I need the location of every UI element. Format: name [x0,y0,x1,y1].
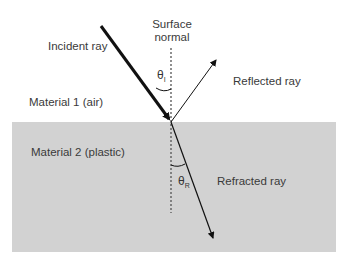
theta-subscript: R [185,182,190,189]
theta-refracted-label: θR [178,174,190,189]
surface-normal-label-line1: Surface [147,18,197,31]
theta-symbol: θ [178,174,185,188]
surface-normal-label-line2: normal [147,31,197,44]
surface-normal-label: Surface normal [147,18,197,44]
theta-symbol: θ [157,68,164,82]
refracted-ray-label: Refracted ray [217,175,286,188]
incident-angle-arc [156,88,171,91]
theta-subscript: I [164,76,166,83]
reflected-ray-arrow [171,60,216,122]
theta-incident-label: θI [157,68,166,83]
material-2-label: Material 2 (plastic) [31,146,125,159]
refracted-angle-arc [171,164,185,166]
material-1-label: Material 1 (air) [29,96,103,109]
refraction-diagram: Surface normal Incident ray Reflected ra… [0,0,341,258]
reflected-ray-label: Reflected ray [233,75,301,88]
incident-ray-label: Incident ray [48,40,107,53]
